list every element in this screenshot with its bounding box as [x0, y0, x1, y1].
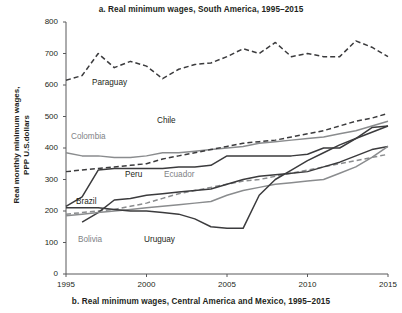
- x-tick-2000: 2000: [127, 280, 167, 289]
- x-tick-1995: 1995: [46, 280, 86, 289]
- series-line-colombia: [66, 121, 388, 157]
- chart-canvas: [66, 22, 388, 274]
- x-tick-2005: 2005: [207, 280, 247, 289]
- y-tick-0: 0: [28, 269, 58, 278]
- series-label-peru: Peru: [125, 170, 142, 179]
- y-tick-500: 500: [28, 112, 58, 121]
- chart-title: a. Real minimum wages, South America, 19…: [0, 5, 402, 14]
- series-label-chile: Chile: [157, 116, 176, 125]
- plot-area: [66, 22, 388, 274]
- series-line-paraguay: [66, 41, 388, 80]
- series-label-ecuador: Ecuador: [164, 170, 195, 179]
- chart-caption: b. Real minimum wages, Central America a…: [0, 297, 402, 306]
- series-label-bolivia: Bolivia: [78, 235, 102, 244]
- series-label-colombia: Colombia: [71, 132, 106, 141]
- x-tick-2015: 2015: [368, 280, 402, 289]
- x-tick-2010: 2010: [288, 280, 328, 289]
- series-label-paraguay: Paraguay: [92, 78, 127, 87]
- y-tick-100: 100: [28, 238, 58, 247]
- y-tick-800: 800: [28, 17, 58, 26]
- y-tick-400: 400: [28, 143, 58, 152]
- y-axis-label-line-0: Real monthly minimum wages,: [12, 60, 22, 230]
- y-tick-200: 200: [28, 206, 58, 215]
- chart-figure: a. Real minimum wages, South America, 19…: [0, 0, 402, 313]
- series-label-uruguay: Uruguay: [144, 235, 175, 244]
- y-tick-700: 700: [28, 49, 58, 58]
- series-line-uruguay: [66, 126, 388, 228]
- y-tick-300: 300: [28, 175, 58, 184]
- series-label-brazil: Brazil: [76, 197, 96, 206]
- y-tick-600: 600: [28, 80, 58, 89]
- series-line-peru: [66, 126, 388, 206]
